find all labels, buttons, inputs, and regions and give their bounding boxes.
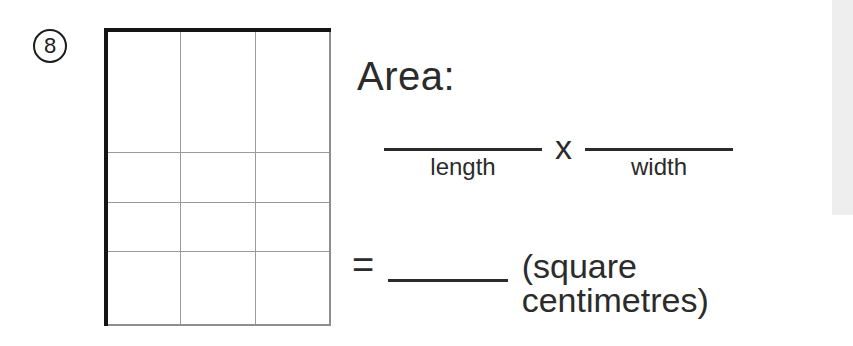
worksheet-page: 8	[0, 0, 853, 346]
area-heading: Area:	[357, 56, 455, 96]
width-term: width	[585, 148, 733, 180]
scan-edge-artifact	[832, 0, 853, 215]
equals-sign: =	[352, 246, 374, 284]
length-term: length	[384, 148, 542, 180]
question-number-text: 8	[44, 35, 56, 57]
grid-row	[106, 153, 330, 202]
grid-cell[interactable]	[181, 251, 256, 325]
grid-cell[interactable]	[255, 251, 330, 325]
grid-cell[interactable]	[106, 251, 181, 325]
grid-cell[interactable]	[255, 153, 330, 202]
width-answer-blank[interactable]	[585, 148, 733, 151]
grid-row	[106, 202, 330, 251]
grid-row	[106, 30, 330, 153]
grid-cell[interactable]	[181, 153, 256, 202]
grid-cell[interactable]	[255, 30, 330, 153]
grid-cell[interactable]	[106, 153, 181, 202]
grid-row	[106, 251, 330, 325]
question-number-badge: 8	[33, 29, 67, 63]
length-answer-blank[interactable]	[384, 148, 542, 151]
width-caption: width	[631, 154, 687, 180]
grid-cell[interactable]	[106, 30, 181, 153]
area-grid-body	[106, 30, 330, 325]
grid-cell[interactable]	[181, 202, 256, 251]
length-caption: length	[430, 154, 495, 180]
area-formula-row: length x width	[384, 148, 733, 180]
area-grid-table	[104, 28, 331, 326]
area-answer-blank[interactable]	[388, 279, 507, 282]
area-result-row: = (square centimetres)	[352, 246, 822, 317]
grid-cell[interactable]	[106, 202, 181, 251]
grid-cell[interactable]	[181, 30, 256, 153]
area-units-label: (square centimetres)	[522, 249, 822, 317]
multiplication-operator: x	[555, 130, 572, 164]
grid-cell[interactable]	[255, 202, 330, 251]
answer-work-area: Area: length x width = (square centimetr…	[352, 48, 822, 318]
area-grid	[104, 28, 331, 326]
